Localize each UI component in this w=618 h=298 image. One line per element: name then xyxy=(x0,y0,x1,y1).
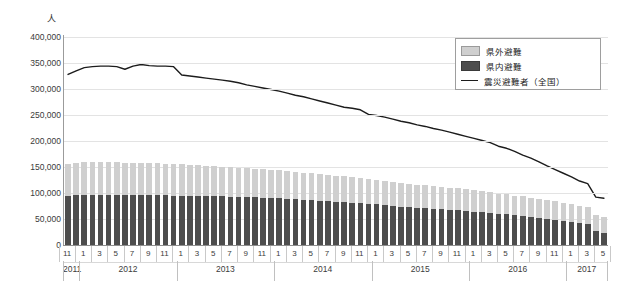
bar-segment-kengai xyxy=(252,169,258,198)
bar-column xyxy=(349,177,355,245)
x-axis-tick-separator xyxy=(594,246,595,262)
bar-column xyxy=(593,215,599,245)
x-axis-tick-separator xyxy=(124,246,125,262)
bar-column xyxy=(585,207,591,245)
bar-column xyxy=(90,162,96,245)
bar-column xyxy=(187,165,193,245)
x-axis-tick-separator xyxy=(448,246,449,262)
x-axis-year-label: 2013 xyxy=(177,264,274,274)
bar-segment-kengai xyxy=(146,163,152,195)
y-axis-tick-labels: 400,000350,000300,000250,000200,000150,0… xyxy=(0,0,61,298)
x-axis-tick-separator xyxy=(546,246,547,262)
bar-segment-kengai xyxy=(439,187,445,209)
x-axis-tick-separator xyxy=(610,246,611,262)
bar-segment-kengai xyxy=(577,206,583,224)
bar-segment-kengai xyxy=(195,165,201,196)
bar-segment-kennai xyxy=(390,206,396,245)
bar-segment-kennai xyxy=(593,231,599,245)
bar-segment-kengai xyxy=(544,200,550,219)
bar-column xyxy=(65,164,71,245)
x-axis-tick-separator xyxy=(75,246,76,262)
bar-segment-kennai xyxy=(155,195,161,245)
bar-segment-kengai xyxy=(333,176,339,202)
bar-column xyxy=(552,201,558,245)
x-axis-month-label: 3 xyxy=(579,247,595,261)
bar-column xyxy=(366,179,372,245)
x-axis-month-label: 11 xyxy=(59,247,75,261)
bar-column xyxy=(341,176,347,245)
bar-column xyxy=(358,178,364,245)
bar-segment-kennai xyxy=(122,195,128,245)
bar-segment-kengai xyxy=(90,162,96,194)
gridline xyxy=(64,115,608,116)
bar-segment-kengai xyxy=(366,179,372,204)
bar-column xyxy=(512,196,518,245)
x-axis-month-label: 1 xyxy=(75,247,91,261)
bar-segment-kengai xyxy=(244,168,250,197)
y-axis-tick: 350,000 xyxy=(3,59,61,68)
x-axis-tick-separator xyxy=(205,246,206,262)
bar-segment-kengai xyxy=(73,163,79,195)
bar-column xyxy=(374,180,380,245)
bar-column xyxy=(398,183,404,245)
bar-segment-kennai xyxy=(349,203,355,245)
bar-column xyxy=(528,198,534,245)
bar-segment-kennai xyxy=(544,219,550,245)
bar-segment-kennai xyxy=(228,197,234,245)
bar-segment-kennai xyxy=(236,197,242,245)
x-axis-tick-separator xyxy=(481,246,482,262)
x-axis-year-label: 2016 xyxy=(469,264,566,274)
x-axis-month-label: 3 xyxy=(384,247,400,261)
x-axis-month-label: 11 xyxy=(546,247,562,261)
bar-column xyxy=(390,182,396,245)
bar-segment-kennai xyxy=(520,216,526,245)
bar-segment-kengai xyxy=(301,173,307,200)
evacuee-chart: 人 400,000350,000300,000250,000200,000150… xyxy=(0,0,618,298)
bar-column xyxy=(504,194,510,245)
bar-segment-kennai xyxy=(512,215,518,245)
bar-segment-kengai xyxy=(219,167,225,197)
bar-segment-kennai xyxy=(219,196,225,245)
x-axis-month-label: 7 xyxy=(124,247,140,261)
bar-segment-kennai xyxy=(504,214,510,245)
bar-segment-kengai xyxy=(561,203,567,221)
bar-segment-kennai xyxy=(431,209,437,245)
bar-column xyxy=(496,194,502,245)
x-axis-month-label: 3 xyxy=(189,247,205,261)
bar-segment-kengai xyxy=(325,175,331,202)
bar-segment-kengai xyxy=(552,201,558,220)
bar-segment-kengai xyxy=(341,176,347,202)
x-axis-month-label: 5 xyxy=(595,247,611,261)
x-axis-tick-separator xyxy=(91,246,92,262)
x-axis-tick-separator xyxy=(367,246,368,262)
bar-segment-kennai xyxy=(114,195,120,245)
bar-column xyxy=(309,173,315,245)
bar-segment-kennai xyxy=(577,223,583,245)
bar-segment-kennai xyxy=(601,233,607,245)
bar-segment-kengai xyxy=(114,162,120,194)
bar-segment-kengai xyxy=(463,189,469,210)
x-axis-year-separator xyxy=(63,261,64,281)
bar-segment-kengai xyxy=(138,163,144,195)
bar-segment-kennai xyxy=(98,195,104,245)
bar-segment-kengai xyxy=(447,188,453,210)
bar-column xyxy=(268,170,274,245)
x-axis-month-label: 9 xyxy=(530,247,546,261)
bar-segment-kengai xyxy=(276,170,282,198)
x-axis-month-label: 7 xyxy=(514,247,530,261)
legend-label-kengai: 県外避難 xyxy=(486,45,522,57)
bar-column xyxy=(471,190,477,245)
bar-segment-kennai xyxy=(561,221,567,245)
bar-column xyxy=(114,162,120,245)
bar-segment-kennai xyxy=(341,202,347,245)
bar-segment-kennai xyxy=(333,202,339,245)
x-axis-tick-separator xyxy=(335,246,336,262)
x-axis-tick-separator xyxy=(465,246,466,262)
x-axis-month-label: 11 xyxy=(254,247,270,261)
x-axis-tick-separator xyxy=(302,246,303,262)
bar-column xyxy=(211,166,217,245)
bar-segment-kennai xyxy=(439,209,445,245)
bar-segment-kengai xyxy=(317,174,323,201)
legend-label-kennai: 県内避難 xyxy=(486,60,522,72)
bar-column xyxy=(382,181,388,245)
